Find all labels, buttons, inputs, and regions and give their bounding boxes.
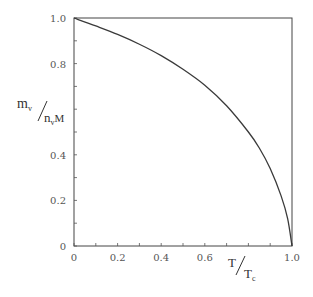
y-tick-label: 0.4 [50, 150, 66, 161]
y-tick-label: 0.8 [50, 59, 66, 70]
y-axis-label: mv nvM [17, 96, 65, 127]
magnetization-curve [74, 18, 292, 246]
y-label-numerator: mv [17, 96, 32, 113]
x-tick-label: 1.0 [284, 252, 300, 263]
x-tick-label: 0.6 [197, 252, 213, 263]
x-axis-tick-labels: 00.20.40.61.0 [71, 252, 300, 263]
plot-frame [74, 18, 292, 246]
y-label-denominator: nvM [44, 110, 65, 127]
y-tick-label: 0.2 [50, 195, 66, 206]
x-tick-label: 0 [71, 252, 77, 263]
y-tick-label: 0 [60, 241, 66, 252]
y-axis-tick-labels: 00.20.40.81.0 [50, 13, 66, 252]
x-tick-label: 0.4 [153, 252, 169, 263]
chart: 00.20.40.61.0 00.20.40.81.0 mv nvM T Tc [0, 0, 313, 297]
y-tick-label: 1.0 [50, 13, 66, 24]
x-axis-label: T Tc [228, 255, 256, 283]
x-tick-label: 0.2 [110, 252, 126, 263]
x-label-denominator: Tc [244, 266, 256, 283]
x-label-numerator: T [228, 255, 236, 270]
